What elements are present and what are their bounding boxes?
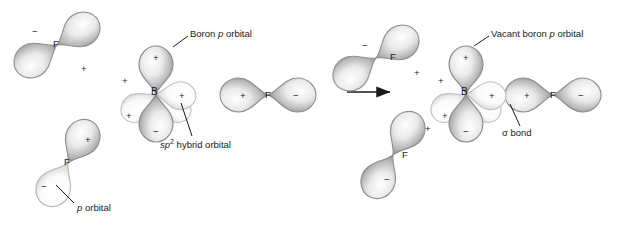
atom-label-fluorine: F [402,150,408,160]
sign-plus: + [179,91,185,101]
label-boron-p-orbital-post: orbital [223,28,252,39]
sign-plus: + [122,76,128,86]
sign-minus: − [463,127,469,137]
label-vacant-boron-p-orbital: Vacant boron p orbital [491,29,583,39]
leader-vacant-boron-p [474,36,489,46]
sign-minus: − [153,127,159,137]
leader-boron-p [173,36,188,47]
label-vacant-post: orbital [555,28,584,39]
label-sigma-bond: σ bond [502,128,532,138]
atom-label-fluorine: F [265,90,271,100]
atom-label-fluorine: F [53,39,59,49]
sign-plus: + [438,76,444,86]
sign-plus: + [442,111,448,121]
sign-minus: − [293,91,299,101]
sign-minus: − [384,175,390,185]
sign-plus: + [489,91,495,101]
sign-minus: − [41,182,47,192]
sign-plus: + [81,64,87,74]
product-fluorine-lower-left [354,105,431,205]
sign-minus: − [32,27,38,37]
sign-plus: + [463,53,469,63]
atom-label-fluorine: F [550,90,556,100]
label-p-orbital-post: orbital [82,202,111,213]
sign-plus: + [240,91,246,101]
label-sp2-italic: sp [160,139,170,150]
atom-label-boron: B [461,87,468,97]
label-vacant-pre: Vacant boron [491,28,549,39]
product-fluorine-upper-left [326,18,425,98]
orbital-diagram-figure: − + F + − F + − + + + B + − F − + F + − … [0,0,624,229]
sign-plus: + [425,124,431,134]
label-boron-p-orbital-pre: Boron [190,28,218,39]
label-p-orbital: p orbital [77,203,111,213]
label-sp2-hybrid-orbital: sp2 hybrid orbital [160,140,231,150]
label-sp2-post: hybrid orbital [174,139,231,150]
atom-label-fluorine: F [64,157,70,167]
sign-minus: − [362,41,368,51]
sign-plus: + [524,91,530,101]
sign-plus: + [126,111,132,121]
label-boron-p-orbital: Boron p orbital [190,29,252,39]
sign-plus: + [153,53,159,63]
sign-minus: − [578,91,584,101]
sign-plus: + [85,135,91,145]
sign-plus: + [414,68,420,78]
atom-label-fluorine: F [390,52,396,62]
atom-label-boron: B [151,87,158,97]
